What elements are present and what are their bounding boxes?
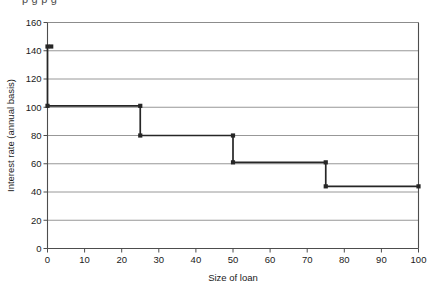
data-marker-6 [231, 160, 235, 164]
x-axis-title: Size of loan [208, 272, 258, 283]
step-line-path [48, 47, 419, 187]
data-marker-4 [138, 133, 142, 137]
data-marker-0 [45, 44, 49, 48]
x-tick-label-10: 10 [79, 254, 90, 265]
x-tick-group: 0102030405060708090100 [45, 249, 427, 265]
cropped-header-text: p g p g [22, 0, 57, 5]
y-tick-label-100: 100 [26, 102, 42, 113]
y-axis-title: Interest rate (annual basis) [5, 79, 16, 192]
step-chart: 0102030405060708090100 02040608010012014… [0, 0, 438, 284]
data-marker-8 [324, 184, 328, 188]
x-tick-label-80: 80 [339, 254, 350, 265]
y-tick-label-160: 160 [26, 17, 42, 28]
data-marker-9 [416, 184, 420, 188]
data-marker-3 [138, 104, 142, 108]
x-tick-label-40: 40 [191, 254, 202, 265]
chart-figure: p g p g 0102030405060708090100 020406080… [0, 0, 438, 284]
data-marker-1 [49, 44, 53, 48]
y-tick-label-20: 20 [31, 215, 42, 226]
x-tick-label-100: 100 [411, 254, 427, 265]
y-tick-label-140: 140 [26, 45, 42, 56]
data-marker-5 [231, 133, 235, 137]
x-tick-label-50: 50 [228, 254, 239, 265]
x-tick-label-90: 90 [376, 254, 387, 265]
x-tick-label-20: 20 [116, 254, 127, 265]
data-marker-7 [324, 160, 328, 164]
data-marker-2 [45, 104, 49, 108]
y-tick-label-80: 80 [31, 130, 42, 141]
y-tick-label-0: 0 [36, 243, 41, 254]
x-tick-label-0: 0 [45, 254, 50, 265]
data-marker-group [45, 44, 420, 188]
x-tick-label-30: 30 [154, 254, 165, 265]
y-tick-label-40: 40 [31, 186, 42, 197]
x-tick-label-60: 60 [265, 254, 276, 265]
y-tick-label-60: 60 [31, 158, 42, 169]
y-tick-label-120: 120 [26, 73, 42, 84]
axis-label-group: Size of loanInterest rate (annual basis) [5, 79, 258, 283]
x-tick-label-70: 70 [302, 254, 313, 265]
y-tick-group: 020406080100120140160 [26, 17, 48, 254]
data-series-step-line [48, 47, 419, 187]
